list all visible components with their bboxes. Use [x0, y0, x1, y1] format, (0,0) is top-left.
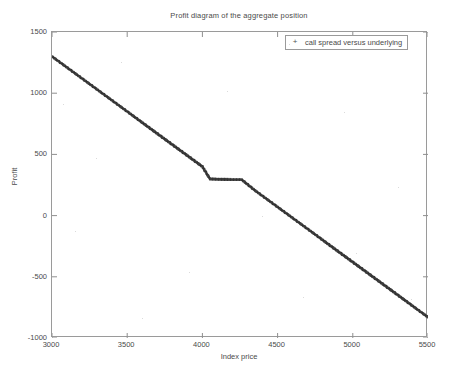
axis-tickmarks	[52, 32, 428, 338]
scan-speckle	[398, 187, 399, 188]
y-tick-label: -500	[3, 271, 47, 280]
y-tick-label: 0	[3, 210, 47, 219]
chart-legend: + call spread versus underlying	[285, 35, 408, 50]
scan-speckle	[356, 253, 357, 254]
y-axis-label: Profit	[10, 147, 19, 207]
y-tick-label: 1500	[3, 27, 47, 36]
scan-speckle	[121, 62, 122, 63]
scan-speckle	[344, 112, 345, 113]
plot-canvas	[52, 32, 428, 338]
x-tick-label: 4500	[247, 340, 307, 349]
data-series-line	[52, 56, 428, 317]
scan-speckle	[189, 272, 190, 273]
scan-speckle	[262, 216, 263, 217]
x-tick-label: 3000	[21, 340, 81, 349]
x-tick-label: 5500	[397, 340, 450, 349]
scan-speckle	[63, 104, 64, 105]
data-series-markers	[52, 56, 428, 317]
y-tick-label: 1000	[3, 88, 47, 97]
plus-marker-icon: +	[290, 38, 300, 47]
scan-speckle	[75, 231, 76, 232]
scan-speckle	[303, 297, 304, 298]
scan-speckle	[96, 158, 97, 159]
y-axis-tick-labels: 150010005000-500-1000	[0, 31, 47, 337]
x-tick-label: 5000	[322, 340, 382, 349]
scan-speckle	[289, 44, 290, 45]
plot-area	[51, 31, 427, 337]
scan-speckle	[227, 91, 228, 92]
x-axis-label: Index price	[51, 352, 427, 361]
x-tick-label: 3500	[96, 340, 156, 349]
chart-title: Profit diagram of the aggregate position	[51, 11, 427, 20]
x-tick-label: 4000	[171, 340, 231, 349]
profit-diagram-figure: Profit diagram of the aggregate position…	[0, 0, 450, 372]
scan-speckle	[142, 318, 143, 319]
scan-speckle	[411, 299, 412, 300]
legend-entry-label: call spread versus underlying	[305, 38, 402, 47]
